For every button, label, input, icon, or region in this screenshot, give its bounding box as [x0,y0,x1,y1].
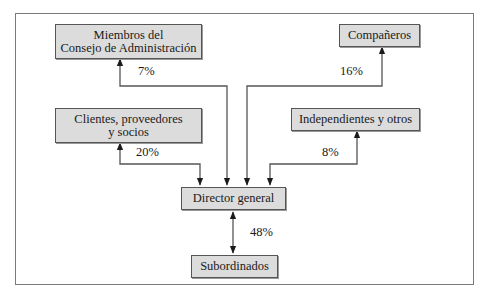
pct-independientes: 8% [322,145,339,160]
pct-clientes: 20% [136,145,159,160]
node-subordinados-label: Subordinados [200,260,269,273]
node-subordinados: Subordinados [191,255,278,278]
edge-independientes-director [270,131,357,185]
edge-clientes-director [120,143,200,185]
pct-companeros: 16% [340,64,363,79]
node-director-general: Director general [181,187,286,210]
pct-miembros: 7% [138,64,155,79]
node-miembros-consejo: Miembros del Consejo de Administración [55,24,202,59]
node-clientes-line1: Clientes, proveedores [74,113,182,126]
node-miembros-line1: Miembros del [94,29,164,42]
node-independientes-otros: Independientes y otros [291,108,420,131]
node-clientes-line2: y socios [108,126,149,139]
pct-subordinados: 48% [250,225,273,240]
node-miembros-line2: Consejo de Administración [60,42,196,55]
node-companeros-label: Compañeros [348,29,411,42]
node-clientes-proveedores-socios: Clientes, proveedores y socios [55,108,202,143]
node-companeros: Compañeros [339,24,420,47]
node-independientes-label: Independientes y otros [299,113,412,126]
node-director-label: Director general [193,192,275,205]
